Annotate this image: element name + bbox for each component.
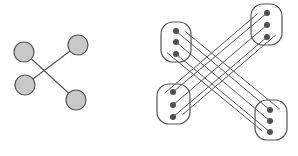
graph-node [15,75,35,95]
group-dot [267,107,273,113]
group-dot [264,10,270,16]
group-dot [170,89,176,95]
group-dot [170,114,176,120]
expanded-graph [157,4,287,140]
group-dot [267,118,273,124]
connection-line [173,37,267,117]
group-dot [267,129,273,135]
group-dot [173,28,179,34]
group-dot [173,51,179,57]
group-dot [170,102,176,108]
graph-node [66,90,86,110]
simple-graph [14,35,88,110]
graph-node [14,42,34,62]
diagram-canvas [0,0,298,156]
group-dot [264,34,270,40]
graph-node [68,35,88,55]
connection-line [173,25,267,105]
group-dot [173,39,179,45]
group-dot [264,22,270,28]
